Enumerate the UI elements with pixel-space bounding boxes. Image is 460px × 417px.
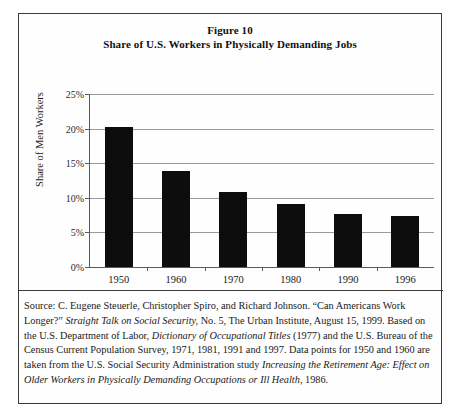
- bar-1980: [277, 204, 305, 267]
- x-tick-label-1990: 1990: [338, 274, 359, 285]
- x-tick-mark: [377, 267, 378, 271]
- plot-area: 0%5%10%15%20%25% 19501960197019801990199…: [89, 94, 434, 268]
- figure-caption: Share of U.S. Workers in Physically Dema…: [19, 37, 441, 51]
- y-tick-label: 15%: [66, 158, 84, 169]
- figure-number: Figure 10: [19, 23, 441, 37]
- x-tick-label-1960: 1960: [166, 274, 187, 285]
- bar-1950: [105, 127, 133, 267]
- y-tick-label: 10%: [66, 192, 84, 203]
- x-tick-mark: [319, 267, 320, 271]
- source-italic-1: Straight Talk on Social Security,: [65, 315, 198, 326]
- y-tick-label: 0%: [71, 262, 84, 273]
- source-italic-2: Dictionary of Occupational Titles: [152, 330, 291, 341]
- x-tick-label-1980: 1980: [280, 274, 301, 285]
- y-tick-label: 25%: [66, 89, 84, 100]
- section-divider: [19, 290, 443, 291]
- y-axis-title: Share of Men Workers: [34, 70, 45, 210]
- figure-box: Figure 10 Share of U.S. Workers in Physi…: [18, 13, 442, 404]
- x-tick-mark: [262, 267, 263, 271]
- y-tick-mark: [85, 267, 90, 268]
- chart-region: Share of Men Workers 0%5%10%15%20%25% 19…: [19, 62, 443, 291]
- x-tick-label-1950: 1950: [108, 274, 129, 285]
- source-note: Source: C. Eugene Steuerle, Christopher …: [24, 299, 436, 388]
- x-tick-mark: [147, 267, 148, 271]
- bar-1970: [219, 192, 247, 267]
- figure-title: Figure 10 Share of U.S. Workers in Physi…: [19, 23, 441, 51]
- bar-1960: [162, 171, 190, 267]
- bar-series: [90, 94, 434, 267]
- y-tick-label: 20%: [66, 123, 84, 134]
- x-tick-mark: [205, 267, 206, 271]
- x-tick-label-1970: 1970: [223, 274, 244, 285]
- bar-1990: [334, 214, 362, 267]
- y-tick-label: 5%: [71, 227, 84, 238]
- source-suffix: 1986.: [302, 374, 328, 385]
- bar-1996: [391, 216, 419, 267]
- x-tick-label-1996: 1996: [395, 274, 416, 285]
